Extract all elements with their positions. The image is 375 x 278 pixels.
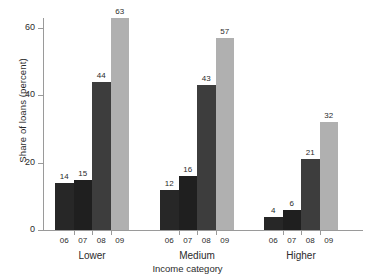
x-tick [301,231,302,235]
x-group-label-lower: Lower [47,250,137,261]
bar-higher-06 [264,217,283,230]
y-tick-0 [38,230,43,231]
bar-lower-07 [74,180,93,231]
bar-value-lower-08: 44 [90,71,112,80]
x-axis-line [43,230,363,231]
bar-lower-08 [92,82,111,230]
bar-value-medium-09: 57 [214,27,236,36]
x-year-label-higher-09: 09 [319,236,339,245]
x-year-label-lower-09: 09 [110,236,130,245]
x-tick [197,231,198,235]
bar-value-medium-07: 16 [177,165,199,174]
x-year-label-lower-08: 08 [91,236,111,245]
bar-lower-06 [55,183,74,230]
x-tick [320,231,321,235]
x-tick [92,231,93,235]
x-year-label-higher-08: 08 [300,236,320,245]
bar-lower-09 [111,18,130,230]
bar-higher-08 [301,159,320,230]
x-year-label-lower-06: 06 [54,236,74,245]
bar-medium-09 [216,38,235,230]
bar-value-higher-08: 21 [299,148,321,157]
bar-value-higher-09: 32 [318,111,340,120]
x-group-label-medium: Medium [152,250,242,261]
bar-value-medium-08: 43 [195,74,217,83]
y-axis-line [43,18,44,231]
x-tick [216,231,217,235]
y-tick-20 [38,163,43,164]
x-year-label-medium-06: 06 [159,236,179,245]
x-tick [179,231,180,235]
x-year-label-higher-06: 06 [263,236,283,245]
x-tick [283,231,284,235]
bar-medium-07 [179,176,198,230]
x-group-label-higher: Higher [256,250,346,261]
bar-chart: Share of loans (percent) 0204060 1406150… [0,0,375,278]
y-tick-label-20: 20 [11,157,35,167]
bar-value-lower-09: 63 [109,7,131,16]
bar-value-lower-07: 15 [72,169,94,178]
bar-higher-09 [320,122,339,230]
bar-value-higher-07: 6 [281,199,303,208]
y-tick-label-40: 40 [11,89,35,99]
y-tick-60 [38,28,43,29]
x-tick [111,231,112,235]
y-tick-label-0: 0 [11,224,35,234]
bar-value-medium-06: 12 [158,179,180,188]
x-year-label-medium-07: 07 [178,236,198,245]
x-year-label-higher-07: 07 [282,236,302,245]
bar-medium-08 [197,85,216,230]
y-tick-40 [38,95,43,96]
bar-higher-07 [283,210,302,230]
bar-medium-06 [160,190,179,230]
y-tick-label-60: 60 [11,22,35,32]
x-year-label-medium-08: 08 [196,236,216,245]
x-tick [74,231,75,235]
x-year-label-lower-07: 07 [73,236,93,245]
x-year-label-medium-09: 09 [215,236,235,245]
x-axis-title: Income category [0,263,375,274]
